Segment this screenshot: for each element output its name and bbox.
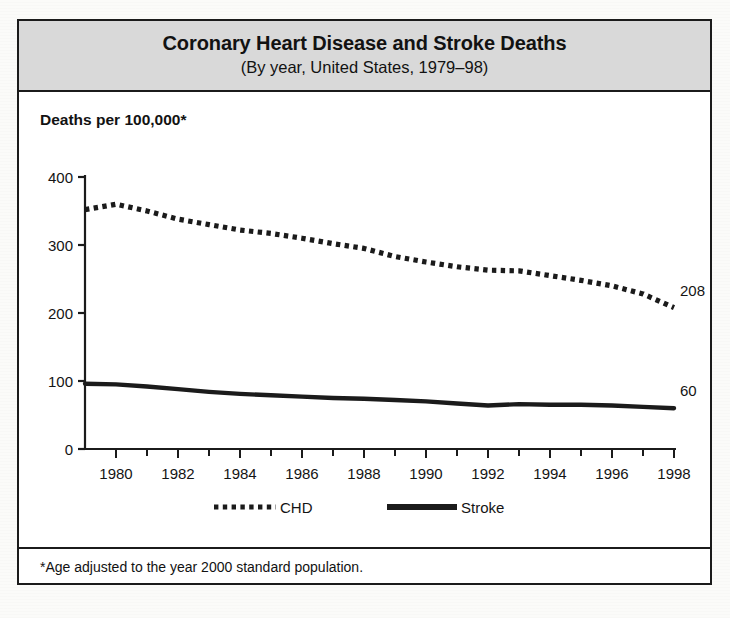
- x-tick-label: 1988: [347, 465, 380, 482]
- footnote-divider: [19, 547, 710, 549]
- y-tick-label: 0: [65, 441, 73, 458]
- x-tick-label: 1986: [285, 465, 318, 482]
- y-tick-label: 400: [48, 169, 73, 186]
- figure-title-band: Coronary Heart Disease and Stroke Deaths…: [19, 21, 710, 92]
- series-line-stroke: [85, 384, 674, 408]
- x-tick-label: 1984: [223, 465, 256, 482]
- x-tick-label: 1998: [657, 465, 690, 482]
- x-tick-label: 1996: [595, 465, 628, 482]
- chart-legend: CHDStroke: [214, 499, 504, 516]
- figure-frame: Coronary Heart Disease and Stroke Deaths…: [17, 19, 712, 585]
- series-end-label-stroke: 60: [680, 382, 697, 399]
- x-tick-label: 1992: [471, 465, 504, 482]
- y-tick-label: 100: [48, 373, 73, 390]
- plot-body: Deaths per 100,000* 01002003004001980198…: [19, 92, 710, 583]
- axes-layer: 0100200300400198019821984198619881990199…: [48, 169, 691, 482]
- y-tick-label: 300: [48, 237, 73, 254]
- footnote-text: *Age adjusted to the year 2000 standard …: [40, 559, 363, 575]
- x-tick-label: 1994: [533, 465, 566, 482]
- chart-plot: 0100200300400198019821984198619881990199…: [19, 92, 710, 544]
- annotation-layer: 20860: [680, 282, 705, 400]
- x-tick-label: 1982: [161, 465, 194, 482]
- series-layer: [85, 204, 674, 408]
- y-tick-label: 200: [48, 305, 73, 322]
- legend-label-stroke[interactable]: Stroke: [461, 499, 504, 516]
- x-tick-label: 1990: [409, 465, 442, 482]
- series-end-label-chd: 208: [680, 282, 705, 299]
- x-tick-label: 1980: [99, 465, 132, 482]
- series-line-chd: [85, 204, 674, 307]
- legend-label-chd[interactable]: CHD: [280, 499, 313, 516]
- chart-subtitle: (By year, United States, 1979–98): [19, 58, 710, 76]
- chart-title: Coronary Heart Disease and Stroke Deaths: [19, 32, 710, 54]
